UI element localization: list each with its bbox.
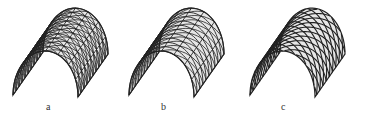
- panel-label-a: a: [46, 101, 50, 112]
- panel-a: a: [0, 0, 122, 123]
- panel-b: b: [120, 0, 242, 123]
- barrel-vault-lattice-c: [240, 0, 367, 123]
- panel-label-b: b: [161, 101, 166, 112]
- panel-label-c: c: [281, 101, 285, 112]
- panel-c: c: [240, 0, 362, 123]
- barrel-vault-lattice-a: [0, 0, 122, 123]
- barrel-vault-lattice-b: [120, 0, 242, 123]
